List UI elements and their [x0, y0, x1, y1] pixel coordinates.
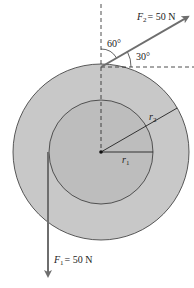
angle-arc-30	[128, 52, 132, 67]
angle-arc-60	[101, 49, 117, 58]
force-f1-label: F1= 50 N	[53, 254, 92, 267]
wheel-axle-diagram: F2= 50 N 60° 30° r2 r1 F1= 50 N	[0, 0, 194, 288]
angle-30-label: 30°	[136, 51, 150, 62]
force-f2-label: F2= 50 N	[136, 11, 175, 24]
angle-60-label: 60°	[107, 38, 121, 49]
center-point	[99, 150, 103, 154]
